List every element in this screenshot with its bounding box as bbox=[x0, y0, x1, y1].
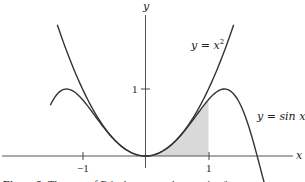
curve-label-x-squared-text: y = x bbox=[190, 39, 220, 52]
caption-text: The area of R is the area under y = sin … bbox=[48, 178, 228, 182]
x-tick-label-neg1: −1 bbox=[77, 162, 89, 174]
x-tick-label-1: 1 bbox=[206, 162, 212, 174]
curve-label-sin-text: y = sin x bbox=[256, 110, 305, 123]
curve-label-sin-x-squared: y = sin x2 bbox=[256, 109, 305, 123]
y-tick-label-1: 1 bbox=[132, 83, 138, 95]
curve-label-x-squared-sup: 2 bbox=[220, 38, 224, 46]
figure-caption: Figure 3: The area of R is the area unde… bbox=[1, 178, 228, 182]
curve-label-x-squared: y = x2 bbox=[190, 38, 224, 52]
x-axis-label: x bbox=[296, 149, 303, 162]
chart: −1 1 1 x y y = x2 y = sin x2 Figure 3: T… bbox=[0, 0, 305, 182]
caption-label: Figure 3: bbox=[1, 178, 45, 182]
y-axis-label: y bbox=[142, 0, 150, 13]
